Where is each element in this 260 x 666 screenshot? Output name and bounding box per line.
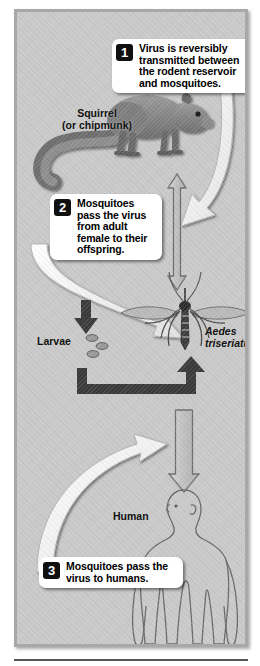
callout-step-3-number: 3: [43, 562, 60, 579]
figure-frame: Squirrel (or chipmunk) Larvae Aedes tris…: [14, 9, 248, 647]
label-aedes-species: triseriatus: [205, 337, 248, 349]
adult-to-larvae-arrow: [74, 300, 98, 334]
callout-step-3-text: Mosquitoes pass the virus to humans.: [66, 561, 177, 584]
label-squirrel-line2: (or chipmunk): [62, 119, 132, 131]
figure-bottom-rule: [14, 659, 248, 661]
callout3-to-mosquito-arrow: [37, 434, 167, 572]
mosquito-to-human-arrow: [169, 410, 199, 492]
label-aedes-genus: Aedes: [205, 325, 237, 337]
figure-canvas: Squirrel (or chipmunk) Larvae Aedes tris…: [17, 12, 245, 644]
label-larvae: Larvae: [37, 336, 79, 348]
label-squirrel: Squirrel (or chipmunk): [47, 108, 147, 131]
callout-step-1: 1 Virus is reversibly transmitted betwee…: [112, 39, 248, 93]
callout-step-1-number: 1: [116, 44, 133, 61]
callout-step-2-text: Mosquitoes pass the virus from adult fem…: [77, 198, 156, 256]
callout-step-3: 3 Mosquitoes pass the virus to humans.: [39, 557, 183, 588]
callout-step-2-number: 2: [54, 199, 71, 216]
squirrel-illustration: [42, 93, 214, 182]
squirrel-mosquito-bidirectional-arrow: [168, 174, 186, 290]
label-aedes-triseriatus: Aedes triseriatus: [205, 325, 248, 349]
label-squirrel-line1: Squirrel: [77, 107, 117, 119]
label-human: Human: [113, 511, 163, 523]
mosquito-larvae-illustration: [86, 335, 108, 358]
larvae-to-adult-arrow: [77, 356, 205, 394]
callout-step-1-text: Virus is reversibly transmitted between …: [139, 43, 248, 89]
callout-step-2: 2 Mosquitoes pass the virus from adult f…: [50, 194, 162, 260]
